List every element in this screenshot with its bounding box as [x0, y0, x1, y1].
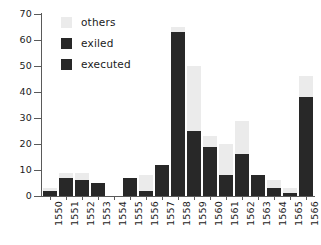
x-axis-tick-label: 1555 [134, 201, 144, 241]
legend-swatch-icon [61, 38, 72, 49]
x-axis-tick [98, 196, 99, 200]
x-axis-tick [290, 196, 291, 200]
x-axis-tick-label: 1562 [246, 201, 256, 241]
y-axis-tick-label: 50 [2, 61, 32, 71]
bar-stack[interactable] [139, 175, 153, 196]
legend-item[interactable]: executed [61, 54, 131, 75]
bar-segment-others[interactable] [75, 173, 89, 181]
x-axis-tick-label: 1556 [150, 201, 160, 241]
bar-segment-executed[interactable] [299, 97, 313, 196]
legend-swatch-icon [61, 59, 72, 70]
bar-segment-executed[interactable] [75, 180, 89, 196]
bar-segment-executed[interactable] [91, 183, 105, 196]
legend-label: exiled [81, 38, 114, 49]
bar-segment-executed[interactable] [219, 175, 233, 196]
legend-label: executed [81, 59, 131, 70]
legend-swatch-icon [61, 17, 72, 28]
bar-stack[interactable] [267, 180, 281, 196]
y-axis-tick-label-wrap: 70 [0, 9, 32, 19]
bar-segment-others[interactable] [219, 144, 233, 175]
bar-segment-executed[interactable] [203, 147, 217, 196]
bar-slot[interactable] [202, 14, 218, 196]
y-axis-tick [34, 14, 41, 15]
x-axis-tick-label: 1551 [70, 201, 80, 241]
bar-slot[interactable] [298, 14, 314, 196]
bar-slot[interactable] [250, 14, 266, 196]
bar-slot[interactable] [154, 14, 170, 196]
x-axis-tick-label: 1552 [86, 201, 96, 241]
bar-segment-executed[interactable] [251, 175, 265, 196]
bar-segment-others[interactable] [299, 76, 313, 97]
x-axis-tick [178, 196, 179, 200]
bar-slot[interactable] [266, 14, 282, 196]
y-axis-tick-label: 10 [2, 165, 32, 175]
bar-segment-executed[interactable] [171, 32, 185, 196]
x-axis-tick [258, 196, 259, 200]
bar-stack[interactable] [203, 136, 217, 196]
bar-slot[interactable] [234, 14, 250, 196]
y-axis-tick-label: 20 [2, 139, 32, 149]
bar-slot[interactable] [186, 14, 202, 196]
x-axis-tick-label: 1565 [294, 201, 304, 241]
x-axis-tick [274, 196, 275, 200]
x-axis-tick-label: 1563 [262, 201, 272, 241]
bar-slot[interactable] [42, 14, 58, 196]
bar-stack[interactable] [59, 173, 73, 196]
y-axis-tick-label-wrap: 30 [0, 113, 32, 123]
bar-stack[interactable] [251, 175, 265, 196]
x-axis-tick-label: 1553 [102, 201, 112, 241]
x-axis-tick-label: 1557 [166, 201, 176, 241]
y-axis-tick [34, 92, 41, 93]
y-axis-tick-label: 0 [2, 191, 32, 201]
bar-segment-others[interactable] [203, 136, 217, 146]
x-axis-tick [66, 196, 67, 200]
bar-segment-others[interactable] [235, 121, 249, 155]
bar-stack[interactable] [91, 183, 105, 196]
bar-stack[interactable] [43, 188, 57, 196]
bar-segment-executed[interactable] [59, 178, 73, 196]
bar-segment-executed[interactable] [155, 165, 169, 196]
y-axis-tick-label-wrap: 20 [0, 139, 32, 149]
bar-stack[interactable] [219, 144, 233, 196]
bar-stack[interactable] [123, 178, 137, 196]
x-axis-tick-label: 1561 [230, 201, 240, 241]
bar-segment-executed[interactable] [235, 154, 249, 196]
bar-segment-others[interactable] [187, 66, 201, 131]
bar-stack[interactable] [75, 173, 89, 196]
y-axis-tick [34, 170, 41, 171]
y-axis-tick [34, 40, 41, 41]
bar-segment-executed[interactable] [123, 178, 137, 196]
bar-slot[interactable] [170, 14, 186, 196]
y-axis-tick [34, 144, 41, 145]
bar-slot[interactable] [282, 14, 298, 196]
bar-stack[interactable] [155, 165, 169, 196]
x-axis-tick-label: 1554 [118, 201, 128, 241]
x-axis-tick-label: 1564 [278, 201, 288, 241]
bar-stack[interactable] [283, 188, 297, 196]
legend-item[interactable]: exiled [61, 33, 131, 54]
bar-segment-others[interactable] [267, 180, 281, 188]
x-axis-tick-label: 1558 [182, 201, 192, 241]
bar-chart: 010203040506070 155015511552155315541555… [0, 0, 321, 245]
bar-segment-others[interactable] [139, 175, 153, 191]
y-axis-tick-label: 70 [2, 9, 32, 19]
y-axis-tick-label-wrap: 40 [0, 87, 32, 97]
bar-stack[interactable] [299, 76, 313, 196]
bar-slot[interactable] [218, 14, 234, 196]
y-axis-tick [34, 66, 41, 67]
y-axis-tick-label-wrap: 50 [0, 61, 32, 71]
legend-item[interactable]: others [61, 12, 131, 33]
x-axis-tick [114, 196, 115, 200]
x-axis-tick [210, 196, 211, 200]
bar-stack[interactable] [171, 27, 185, 196]
x-axis-tick [306, 196, 307, 200]
bar-slot[interactable] [138, 14, 154, 196]
legend-label: others [81, 17, 116, 28]
x-axis-tick-label: 1550 [54, 201, 64, 241]
x-axis-tick [226, 196, 227, 200]
bar-segment-executed[interactable] [267, 188, 281, 196]
bar-stack[interactable] [187, 66, 201, 196]
bar-stack[interactable] [235, 121, 249, 196]
bar-segment-executed[interactable] [187, 131, 201, 196]
y-axis-tick [34, 118, 41, 119]
